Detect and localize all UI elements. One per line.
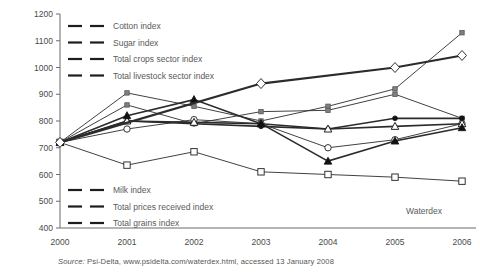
- open-diamond-marker: [458, 50, 467, 60]
- legend-label: Total grains index: [113, 218, 180, 228]
- chart-svg: 4005006007008009001000110012002000200120…: [0, 0, 480, 275]
- source-label: Source:: [58, 257, 85, 266]
- open-diamond-marker: [391, 63, 400, 73]
- legend-label: Total crops sector index: [113, 54, 203, 64]
- open-square-marker: [124, 162, 130, 168]
- series-cotton-index: [57, 139, 465, 184]
- filled-square-marker: [326, 108, 330, 112]
- filled-square-marker: [393, 87, 397, 91]
- x-tick-label: 2000: [51, 237, 70, 247]
- legend-label: Cotton index: [113, 21, 161, 31]
- x-tick-label: 2003: [252, 237, 271, 247]
- x-tick-label: 2001: [118, 237, 137, 247]
- filled-square-marker: [125, 103, 129, 107]
- legend-item: Total grains index: [68, 218, 180, 228]
- filled-dot-marker: [393, 116, 398, 121]
- legend-label: Total livestock sector index: [113, 71, 215, 81]
- source-value: Psi-Delta, www.psidelta.com/waterdex.htm…: [87, 257, 334, 266]
- open-diamond-marker: [257, 79, 266, 89]
- filled-square-marker: [259, 109, 263, 113]
- x-tick-label: 2002: [185, 237, 204, 247]
- filled-square-marker: [125, 91, 129, 95]
- y-tick-label: 600: [39, 170, 53, 180]
- y-tick-label: 1200: [34, 9, 53, 19]
- x-tick-label: 2005: [386, 237, 405, 247]
- series-line: [60, 55, 462, 142]
- filled-square-marker: [460, 31, 464, 35]
- legend-item: Total crops sector index: [68, 54, 203, 64]
- open-square-marker: [258, 169, 264, 175]
- legend-item: Total prices received index: [68, 202, 214, 212]
- y-tick-label: 700: [39, 143, 53, 153]
- series-waterdex: [56, 50, 467, 147]
- open-square-marker: [325, 171, 331, 177]
- legend-item: Sugar index: [68, 38, 159, 48]
- y-tick-label: 500: [39, 196, 53, 206]
- legend-label: Milk index: [113, 185, 152, 195]
- legend-item: Milk index: [68, 185, 152, 195]
- open-square-marker: [191, 149, 197, 155]
- source-caption: Source: Psi-Delta, www.psidelta.com/wate…: [58, 257, 334, 266]
- y-tick-label: 1000: [34, 63, 53, 73]
- legend-item-waterdex: Waterdex: [406, 206, 443, 216]
- open-circle-marker: [325, 145, 331, 151]
- open-square-marker: [392, 174, 398, 180]
- x-tick-label: 2006: [453, 237, 472, 247]
- filled-square-marker: [393, 92, 397, 96]
- y-tick-label: 1100: [35, 36, 54, 46]
- series-total-grains-index: [56, 96, 466, 165]
- legend-item: Cotton index: [68, 21, 161, 31]
- y-tick-label: 900: [39, 89, 53, 99]
- legend-label: Sugar index: [113, 38, 159, 48]
- legend-item: Total livestock sector index: [68, 71, 215, 81]
- open-square-marker: [459, 178, 465, 184]
- legend-label: Waterdex: [406, 206, 443, 216]
- y-tick-label: 800: [39, 116, 53, 126]
- open-circle-marker: [124, 126, 130, 132]
- y-tick-label: 400: [39, 223, 53, 233]
- x-tick-label: 2004: [319, 237, 338, 247]
- legend-label: Total prices received index: [113, 202, 214, 212]
- chart-figure: 4005006007008009001000110012002000200120…: [0, 0, 480, 275]
